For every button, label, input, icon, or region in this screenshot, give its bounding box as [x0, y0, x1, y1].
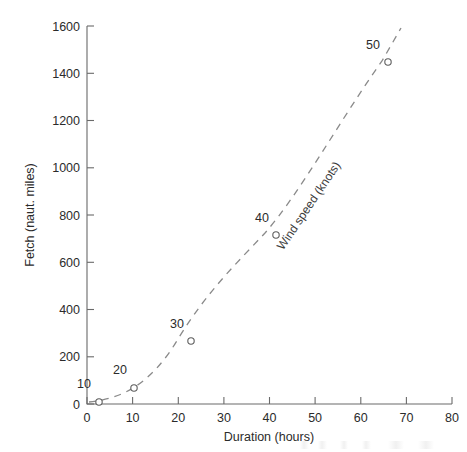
y-tick-label: 400	[59, 303, 80, 317]
x-axis-ticks	[87, 397, 452, 404]
x-tick-label: 60	[354, 411, 368, 425]
x-tick-label: 30	[217, 411, 231, 425]
x-tick-label: 70	[399, 411, 413, 425]
y-tick-label: 200	[59, 350, 80, 364]
x-tick-label: 0	[84, 411, 91, 425]
data-point-marker	[96, 399, 102, 405]
data-point-label: 20	[113, 363, 127, 377]
axis-lines	[87, 26, 452, 404]
y-tick-label: 0	[73, 398, 80, 412]
data-point-label: 50	[366, 38, 380, 52]
y-tick-labels: 0 200 400 600 800 1000 1200 1400 1600	[52, 20, 80, 412]
fetch-duration-plot: 0 200 400 600 800 1000 1200 1400 1600 0 …	[0, 0, 467, 452]
x-tick-label: 10	[126, 411, 140, 425]
y-tick-label: 1400	[52, 67, 80, 81]
chart-figure: 0 200 400 600 800 1000 1200 1400 1600 0 …	[0, 0, 467, 452]
y-tick-label: 600	[59, 256, 80, 270]
x-tick-label: 40	[263, 411, 277, 425]
y-axis-ticks	[87, 26, 94, 404]
data-point-label: 30	[170, 317, 184, 331]
x-axis-title: Duration (hours)	[224, 430, 314, 444]
data-point-marker	[131, 385, 137, 391]
x-tick-label: 80	[445, 411, 459, 425]
y-tick-label: 800	[59, 209, 80, 223]
data-point-labels: 10 20 30 40 50	[77, 38, 380, 391]
y-tick-label: 1000	[52, 161, 80, 175]
data-point-marker	[385, 59, 391, 65]
data-point-label: 10	[77, 377, 91, 391]
x-tick-label: 20	[171, 411, 185, 425]
data-point-label: 40	[255, 211, 269, 225]
x-tick-labels: 0 10 20 30 40 50 60 70 80	[84, 411, 459, 425]
x-tick-label: 50	[308, 411, 322, 425]
y-tick-label: 1200	[52, 114, 80, 128]
data-point-markers	[96, 59, 391, 405]
fetch-duration-curve	[89, 28, 401, 402]
data-point-marker	[188, 338, 194, 344]
y-axis-title: Fetch (naut. miles)	[23, 163, 37, 267]
y-tick-label: 1600	[52, 20, 80, 34]
